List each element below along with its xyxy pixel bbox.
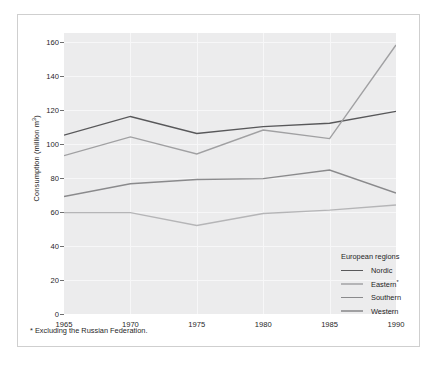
y-tick-label: 140 [29, 71, 59, 80]
legend-swatch [341, 283, 363, 285]
legend-swatch [341, 270, 363, 272]
chart-footnote: * Excluding the Russian Federation. [30, 326, 148, 335]
legend-item-western: Western [341, 307, 401, 315]
x-tick-label: 1990 [388, 320, 405, 329]
legend-item-southern: Southern [341, 294, 401, 302]
legend-label: Eastern* [371, 279, 399, 289]
chart-figure: Consumption (million m3) 020406080100120… [17, 14, 420, 347]
legend-label: Southern [371, 293, 401, 302]
series-line-southern [64, 170, 396, 196]
legend-label-superscript: * [396, 279, 398, 285]
chart-legend: European regions NordicEastern*SouthernW… [341, 252, 401, 321]
legend-label: Western [371, 307, 398, 316]
y-tick-label: 80 [29, 173, 59, 182]
legend-entries: NordicEastern*SouthernWestern [341, 267, 401, 316]
y-tick-mark [60, 314, 64, 315]
y-tick-label: 0 [29, 310, 59, 319]
y-tick-label: 160 [29, 37, 59, 46]
legend-swatch [341, 310, 363, 312]
series-line-eastern- [64, 205, 396, 225]
series-line-western [64, 45, 396, 156]
y-axis-title: Consumption (million m3) [31, 73, 41, 243]
x-tick-label: 1985 [321, 320, 338, 329]
x-tick-label: 1980 [255, 320, 272, 329]
plot-area: 020406080100120140160 196519701975198019… [64, 33, 396, 314]
y-tick-label: 60 [29, 207, 59, 216]
legend-item-nordic: Nordic [341, 267, 401, 275]
legend-swatch [341, 297, 363, 299]
y-tick-label: 120 [29, 105, 59, 114]
y-axis-title-superscript: 3 [31, 118, 37, 121]
legend-title: European regions [341, 252, 401, 261]
y-tick-label: 20 [29, 275, 59, 284]
y-tick-label: 100 [29, 139, 59, 148]
y-tick-label: 40 [29, 241, 59, 250]
legend-label: Nordic [371, 266, 392, 275]
x-tick-label: 1975 [188, 320, 205, 329]
legend-item-eastern: Eastern* [341, 280, 401, 288]
